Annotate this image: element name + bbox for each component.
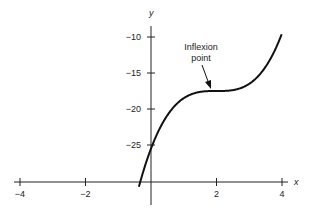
x-ticks: −4−224 bbox=[15, 178, 285, 199]
annotation-line-1: Inflexion bbox=[184, 42, 218, 52]
y-tick-label: −25 bbox=[126, 140, 141, 150]
x-tick-label: −2 bbox=[80, 189, 90, 199]
y-tick-label: −15 bbox=[126, 68, 141, 78]
y-axis-label: y bbox=[148, 8, 154, 18]
inflexion-annotation: Inflexion point bbox=[184, 42, 218, 89]
annotation-line-2: point bbox=[191, 53, 211, 63]
x-axis-label: x bbox=[293, 177, 299, 187]
x-tick-label: 4 bbox=[279, 189, 284, 199]
chart: −4−224 −10−15−20−25 x y Inflexion point bbox=[0, 0, 317, 209]
x-tick-label: −4 bbox=[15, 189, 25, 199]
y-tick-label: −10 bbox=[126, 32, 141, 42]
axes bbox=[14, 26, 288, 205]
y-tick-label: −20 bbox=[126, 104, 141, 114]
x-tick-label: 2 bbox=[214, 189, 219, 199]
arrow-head-icon bbox=[205, 80, 211, 89]
